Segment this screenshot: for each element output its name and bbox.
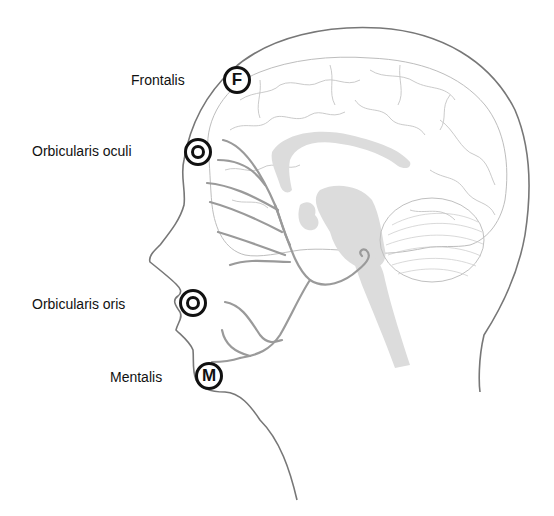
marker-mentalis-icon: M — [195, 362, 223, 390]
facial-muscles-diagram: Frontalis Orbicularis oculi Orbicularis … — [0, 0, 554, 516]
head-outline — [150, 27, 529, 500]
midbrain — [316, 186, 386, 269]
marker-orbicularis-oris-icon — [179, 289, 207, 317]
head-illustration — [0, 0, 554, 516]
label-mentalis: Mentalis — [110, 369, 162, 385]
marker-frontalis-icon: F — [223, 66, 251, 94]
label-frontalis: Frontalis — [131, 72, 185, 88]
label-orbicularis-oculi: Orbicularis oculi — [32, 143, 132, 159]
cerebellum-folia — [386, 213, 483, 276]
marker-orbicularis-oculi-icon — [184, 138, 212, 166]
hypothalamus — [298, 202, 318, 230]
cerebellum — [380, 198, 484, 282]
marker-frontalis-letter: F — [232, 70, 242, 90]
label-orbicularis-oris: Orbicularis oris — [32, 296, 125, 312]
marker-mentalis-letter: M — [202, 366, 216, 386]
corpus-callosum — [272, 132, 411, 193]
